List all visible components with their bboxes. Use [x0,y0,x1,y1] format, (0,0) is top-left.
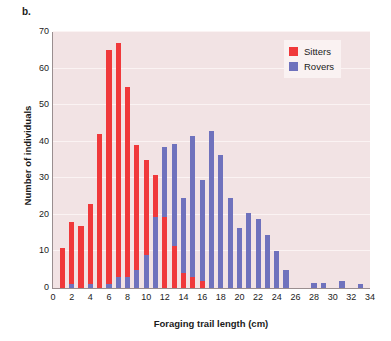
bar-group [358,284,363,288]
bar-segment-rovers [116,277,121,288]
bar-group [144,160,149,288]
bar-group [97,134,102,288]
bar-group [172,144,177,288]
panel-label: b. [22,6,31,17]
bar-group [181,198,186,288]
bar-group [134,145,139,288]
bar-segment-sitters [172,246,177,288]
bar-group [228,198,233,288]
bar-segment-rovers [190,136,195,288]
bar-group [311,283,316,288]
bar-segment-rovers [200,180,205,288]
bar-segment-rovers [311,283,316,288]
bar-segment-rovers [106,284,111,288]
bar-segment-rovers [209,131,214,288]
bar-group [218,155,223,288]
bar-group [265,235,270,288]
bar-segment-rovers [321,283,326,288]
bar-segment-sitters [60,248,65,288]
y-tick-label: 70 [9,26,49,36]
bar-group [116,43,121,288]
bar-group [274,251,279,288]
gridline [53,31,370,32]
bar-group [106,50,111,288]
bar-segment-sitters [125,87,130,288]
bar-group [339,281,344,288]
x-tick-label: 34 [358,292,382,302]
bar-segment-rovers [125,277,130,288]
bar-group [162,147,167,288]
legend-swatch-sitters [289,47,298,56]
bar-group [190,136,195,288]
bar-group [88,204,93,288]
bar-segment-sitters [190,277,195,288]
bar-segment-sitters [134,145,139,288]
bar-segment-sitters [116,43,121,288]
y-tick-label: 60 [9,63,49,73]
bar-segment-rovers [69,284,74,288]
legend-label-rovers: Rovers [304,61,334,72]
bar-group [125,87,130,288]
bar-segment-rovers [237,228,242,288]
bar-group [78,226,83,288]
y-tick-label: 50 [9,99,49,109]
y-tick-label: 10 [9,245,49,255]
legend-swatch-rovers [289,62,298,71]
bar-segment-sitters [69,222,74,288]
y-tick-label: 20 [9,209,49,219]
y-axis-title: Number of individuals [22,56,33,256]
bar-group [69,222,74,288]
bar-segment-sitters [162,217,167,288]
bar-group [256,219,261,288]
bar-segment-rovers [134,270,139,288]
legend-label-sitters: Sitters [304,46,331,57]
bar-segment-rovers [246,213,251,288]
x-axis-line [52,288,370,289]
bar-segment-rovers [265,235,270,288]
bar-segment-rovers [228,198,233,288]
gridline [53,104,370,105]
bar-group [209,131,214,288]
figure-panel-b: b. Number of individuals Foraging trail … [0,0,391,341]
bar-segment-sitters [88,204,93,288]
bar-segment-rovers [274,251,279,288]
bar-segment-rovers [218,155,223,288]
y-tick-label: 30 [9,172,49,182]
bar-segment-rovers [339,281,344,288]
bar-segment-sitters [78,226,83,288]
bar-segment-sitters [106,50,111,288]
bar-group [321,283,326,288]
bar-segment-rovers [88,284,93,288]
legend-item-sitters: Sitters [289,44,334,59]
bar-segment-sitters [200,281,205,288]
bar-segment-rovers [283,270,288,288]
x-axis-title: Foraging trail length (cm) [52,318,370,329]
y-tick-label: 40 [9,136,49,146]
bar-segment-rovers [358,284,363,288]
bar-segment-sitters [97,134,102,288]
bar-segment-rovers [256,219,261,288]
bar-segment-rovers [144,255,149,288]
bar-group [200,180,205,288]
legend: Sitters Rovers [284,40,341,78]
bar-group [246,213,251,288]
y-tick-label: 0 [9,282,49,292]
bar-segment-sitters [181,273,186,288]
bar-group [237,228,242,288]
bar-segment-rovers [153,217,158,288]
legend-item-rovers: Rovers [289,59,334,74]
bar-group [283,270,288,288]
bar-group [60,248,65,288]
bar-group [153,175,158,288]
